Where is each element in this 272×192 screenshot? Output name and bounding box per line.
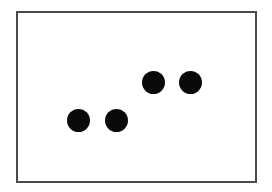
dot-4 bbox=[179, 71, 202, 94]
diagram-canvas bbox=[0, 0, 272, 192]
dot-1 bbox=[67, 109, 90, 132]
dot-2 bbox=[105, 109, 128, 132]
dot-3 bbox=[142, 71, 165, 94]
diagram-frame bbox=[16, 11, 257, 183]
